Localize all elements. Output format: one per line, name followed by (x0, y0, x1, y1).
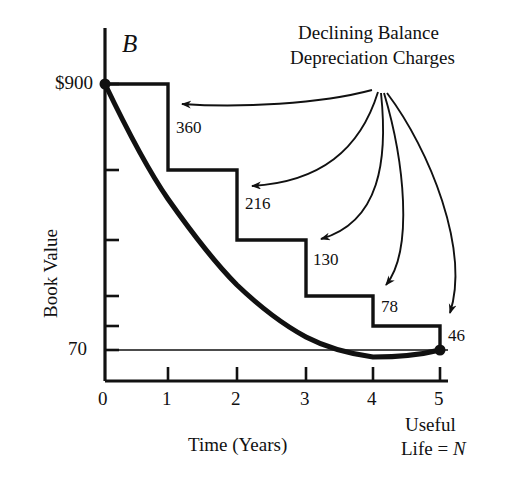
curve-start-marker (100, 79, 111, 90)
curve-end-marker (435, 345, 446, 356)
charges-annotation-line2: Depreciation Charges (290, 47, 455, 68)
useful-life-line2: Life = N (401, 438, 466, 459)
useful-life-text: Life = (401, 438, 453, 459)
axis-lines (105, 28, 448, 381)
n-symbol: N (453, 438, 466, 459)
leader-to-charge-3 (321, 93, 383, 239)
leader-to-charge-2 (252, 92, 378, 186)
x-tick-label-5: 5 (434, 388, 444, 409)
y-tick-label-900: $900 (55, 72, 93, 93)
leader-to-charge-5 (387, 93, 455, 313)
charge-value-label-1: 360 (176, 118, 202, 137)
charge-value-label-2: 216 (245, 194, 271, 213)
y-axis-ticks (105, 84, 119, 350)
charge-value-label-3: 130 (313, 250, 339, 269)
x-tick-label-3: 3 (300, 388, 310, 409)
x-tick-label-4: 4 (367, 388, 377, 409)
x-axis-ticks (168, 367, 440, 381)
y-axis-title: Book Value (40, 229, 62, 318)
useful-life-line1: Useful (405, 414, 456, 435)
book-value-curve (105, 84, 440, 357)
leader-to-charge-1 (182, 90, 372, 105)
charge-value-label-4: 78 (381, 297, 398, 316)
x-axis-title: Time (Years) (188, 434, 287, 455)
annotation-leader-lines (182, 90, 455, 313)
leader-to-charge-4 (384, 93, 403, 285)
chart-canvas: B $900 70 Book Value 0 1 2 3 4 5 Time (Y… (0, 0, 505, 483)
curve-symbol-label: B (122, 30, 137, 58)
charges-annotation-line1: Declining Balance (298, 22, 439, 43)
y-tick-label-70: 70 (68, 338, 87, 359)
x-tick-label-1: 1 (162, 388, 172, 409)
x-tick-label-2: 2 (231, 388, 241, 409)
charge-value-label-5: 46 (448, 326, 465, 345)
x-tick-label-0: 0 (98, 388, 108, 409)
